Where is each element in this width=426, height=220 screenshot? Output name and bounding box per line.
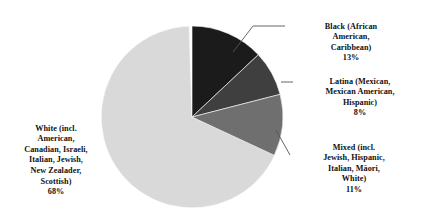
pie-label-white-text: White (incl. American, Canadian, Israeli… [24, 124, 87, 186]
pie-label-latina-value: 8% [296, 108, 424, 119]
pie-label-mixed-value: 11% [292, 185, 416, 196]
pie-label-mixed-text: Mixed (incl. Jewish, Hispanic, Italian, … [323, 143, 385, 184]
pie-label-black-value: 13% [288, 53, 414, 64]
pie-label-latina: Latina (Mexican, Mexican American, Hispa… [296, 66, 424, 130]
pie-label-black-text: Black (African American, Caribbean) [325, 22, 377, 52]
pie-label-mixed: Mixed (incl. Jewish, Hispanic, Italian, … [292, 132, 416, 206]
pie-label-white: White (incl. American, Canadian, Israeli… [2, 113, 110, 208]
pie-label-latina-text: Latina (Mexican, Mexican American, Hispa… [325, 77, 394, 107]
pie-chart-figure: Black (African American, Caribbean) 13% … [0, 0, 426, 220]
pie-label-white-value: 68% [2, 187, 110, 198]
